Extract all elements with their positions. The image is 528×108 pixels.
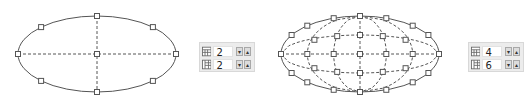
grid-node-handle (305, 23, 310, 28)
rows-input[interactable]: 4 (482, 46, 502, 57)
grid-node-handle (331, 16, 336, 21)
grid-node-handle (95, 52, 100, 57)
grid-node-handle (358, 71, 363, 76)
columns-decrement-button[interactable]: ▾ (505, 60, 512, 69)
ellipse-grid-diagram (0, 0, 528, 108)
columns-input[interactable]: 6 (482, 59, 502, 70)
columns-decrement-button[interactable]: ▾ (236, 60, 243, 69)
rows-increment-button[interactable]: ▴ (513, 47, 520, 56)
rows-spinner[interactable]: 4 ▾ ▴ (471, 45, 521, 57)
grid-spin-panel-right: 4 ▾ ▴ 6 ▾ ▴ (468, 42, 524, 72)
grid-columns-icon (471, 59, 480, 70)
rows-decrement-button[interactable]: ▾ (505, 47, 512, 56)
ellipse-left (16, 14, 179, 95)
grid-node-handle (150, 25, 155, 30)
grid-node-handle (384, 16, 389, 21)
grid-node-handle (289, 33, 294, 38)
grid-node-handle (305, 52, 310, 57)
grid-node-handle (380, 69, 385, 74)
grid-node-handle (312, 37, 317, 42)
rows-increment-button[interactable]: ▴ (244, 47, 251, 56)
grid-node-handle (39, 78, 44, 83)
grid-node-handle (410, 80, 415, 85)
grid-node-handle (384, 87, 389, 92)
rows-input[interactable]: 2 (213, 46, 233, 57)
grid-node-handle (174, 52, 179, 57)
grid-node-handle (312, 66, 317, 71)
grid-node-handle (39, 25, 44, 30)
columns-increment-button[interactable]: ▴ (513, 60, 520, 69)
grid-node-handle (403, 66, 408, 71)
grid-node-handle (358, 52, 363, 57)
grid-node-handle (95, 90, 100, 95)
grid-node-handle (410, 23, 415, 28)
grid-node-handle (335, 34, 340, 39)
grid-rows-icon (202, 46, 211, 57)
grid-node-handle (305, 80, 310, 85)
grid-node-handle (331, 87, 336, 92)
grid-node-handle (358, 33, 363, 38)
grid-node-handle (426, 71, 431, 76)
grid-node-handle (150, 78, 155, 83)
grid-node-handle (437, 52, 442, 57)
grid-spin-panel-left: 2 ▾ ▴ 2 ▾ ▴ (199, 42, 255, 72)
columns-spinner[interactable]: 2 ▾ ▴ (202, 58, 252, 70)
columns-spinner[interactable]: 6 ▾ ▴ (471, 58, 521, 70)
rows-spinner[interactable]: 2 ▾ ▴ (202, 45, 252, 57)
grid-node-handle (279, 52, 284, 57)
grid-node-handle (380, 34, 385, 39)
columns-input[interactable]: 2 (213, 59, 233, 70)
grid-node-handle (426, 33, 431, 38)
grid-node-handle (403, 37, 408, 42)
grid-node-handle (95, 14, 100, 19)
grid-columns-icon (202, 59, 211, 70)
grid-node-handle (331, 52, 336, 57)
columns-increment-button[interactable]: ▴ (244, 60, 251, 69)
grid-node-handle (335, 69, 340, 74)
grid-node-handle (289, 71, 294, 76)
grid-node-handle (384, 52, 389, 57)
ellipse-right (279, 14, 442, 95)
grid-node-handle (358, 90, 363, 95)
grid-node-handle (410, 52, 415, 57)
grid-node-handle (358, 14, 363, 19)
rows-decrement-button[interactable]: ▾ (236, 47, 243, 56)
grid-rows-icon (471, 46, 480, 57)
grid-node-handle (16, 52, 21, 57)
